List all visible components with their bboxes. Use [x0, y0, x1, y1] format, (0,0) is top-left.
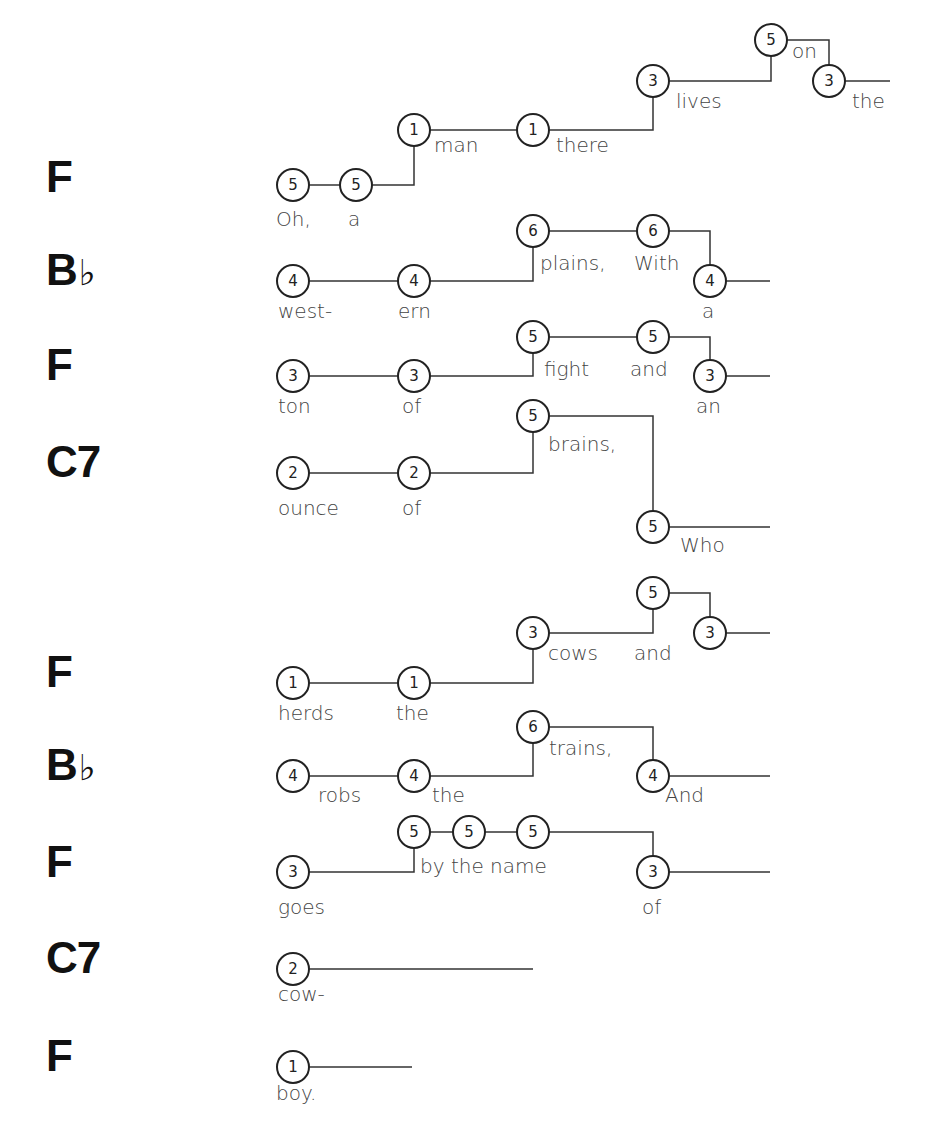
lyric-syllable: a	[702, 299, 714, 323]
note-circle: 5	[637, 511, 669, 543]
lyric-syllable: and	[630, 357, 668, 381]
connector-line	[669, 337, 710, 360]
note-circle: 3	[637, 856, 669, 888]
connector-line	[430, 743, 533, 776]
scale-degree: 1	[409, 674, 419, 692]
connector-line	[669, 56, 771, 81]
note-circle: 4	[277, 265, 309, 297]
note-circle: 2	[277, 953, 309, 985]
note-circle: 3	[694, 617, 726, 649]
lyric-syllable: the	[396, 701, 429, 725]
lyric-syllable: lives	[676, 89, 722, 113]
scale-degree: 6	[528, 718, 538, 736]
connector-line	[430, 247, 533, 281]
lyric-syllable: ounce	[278, 496, 339, 520]
note-circle: 4	[694, 265, 726, 297]
lyric-syllable: And	[665, 783, 704, 807]
note-circle: 5	[517, 400, 549, 432]
scale-degree: 5	[464, 823, 474, 841]
note-circle: 6	[637, 215, 669, 247]
connector-line	[549, 832, 653, 856]
scale-degree: 3	[648, 863, 658, 881]
lyric-syllable: man	[434, 133, 478, 157]
scale-degree: 4	[705, 272, 715, 290]
melody-row: 2cow-	[277, 953, 533, 1006]
note-circle: 3	[813, 65, 845, 97]
connector-line	[549, 416, 653, 511]
lyric-syllable: fight	[544, 357, 589, 381]
melody-row: 4west-4ern6plains,6With4a	[277, 215, 770, 323]
note-circle: 3	[517, 617, 549, 649]
scale-degree: 2	[409, 464, 419, 482]
note-circle: 5	[340, 169, 372, 201]
scale-degree: 1	[288, 674, 298, 692]
scale-degree: 4	[288, 767, 298, 785]
lyric-syllable: and	[634, 641, 672, 665]
scale-degree: 1	[288, 1058, 298, 1076]
connector-line	[549, 609, 653, 633]
scale-degree: 4	[409, 272, 419, 290]
scale-degree: 3	[824, 72, 834, 90]
scale-degree: 5	[648, 328, 658, 346]
scale-degree: 3	[288, 367, 298, 385]
lyric-syllable: cows	[548, 641, 598, 665]
note-circle: 4	[398, 760, 430, 792]
note-circle: 1	[517, 114, 549, 146]
lyric-syllable: on	[792, 39, 817, 63]
note-circle: 5	[277, 169, 309, 201]
lyric-syllable: trains,	[549, 736, 612, 760]
lyric-syllable: there	[556, 133, 609, 157]
scale-degree: 4	[648, 767, 658, 785]
scale-degree: 5	[766, 31, 776, 49]
lyric-syllable: cow-	[278, 982, 325, 1006]
scale-degree: 5	[648, 518, 658, 536]
lyric-syllable: the	[432, 783, 465, 807]
lyric-syllable: west-	[278, 299, 332, 323]
connector-line	[430, 353, 533, 376]
lyric-syllable: ern	[398, 299, 431, 323]
note-circle: 1	[277, 667, 309, 699]
lyric-syllable: plains,	[540, 251, 606, 275]
scale-degree: 5	[288, 176, 298, 194]
scale-degree: 5	[528, 328, 538, 346]
scale-degree: 3	[705, 624, 715, 642]
scale-degree: 4	[409, 767, 419, 785]
lyric-syllable: herds	[278, 701, 334, 725]
note-circle: 1	[398, 667, 430, 699]
melody-row: 1herds1the3cows5and3	[277, 577, 770, 725]
note-circle: 5	[398, 816, 430, 848]
scale-degree: 2	[288, 464, 298, 482]
lyric-syllable: goes	[278, 895, 325, 919]
lyric-syllable: boy.	[276, 1081, 316, 1105]
scale-degree: 5	[351, 176, 361, 194]
note-circle: 3	[277, 360, 309, 392]
lyric-syllable: ton	[278, 394, 311, 418]
note-circle: 3	[398, 360, 430, 392]
scale-degree: 3	[705, 367, 715, 385]
lyric-syllable: of	[402, 496, 421, 520]
lyric-syllable: brains,	[548, 432, 616, 456]
note-circle: 1	[277, 1051, 309, 1083]
melody-row: 3goes5by the name553of	[277, 816, 770, 919]
melody-row: 1boy.	[276, 1051, 412, 1105]
scale-degree: 3	[648, 72, 658, 90]
note-circle: 5	[637, 321, 669, 353]
scale-degree: 4	[288, 272, 298, 290]
lyric-syllable: of	[402, 394, 421, 418]
scale-degree: 6	[648, 222, 658, 240]
melody-chart: FB♭FC7FB♭FC7F 5Oh,5a1man1there3lives5on3…	[0, 0, 932, 1138]
lyric-syllable: Who	[680, 533, 725, 557]
connector-line	[430, 432, 533, 473]
scale-degree: 5	[648, 584, 658, 602]
scale-degree: 3	[288, 863, 298, 881]
scale-degree: 2	[288, 960, 298, 978]
melody-row: 2ounce2of5brains,5Who	[277, 400, 770, 557]
note-circle: 5	[453, 816, 485, 848]
scale-degree: 5	[528, 407, 538, 425]
note-circle: 5	[637, 577, 669, 609]
note-circle: 6	[517, 711, 549, 743]
note-circle: 1	[398, 114, 430, 146]
melody-row: 5Oh,5a1man1there3lives5on3the	[276, 24, 890, 231]
connector-line	[372, 146, 414, 185]
melody-row: 4robs4the6trains,4And	[277, 711, 770, 807]
